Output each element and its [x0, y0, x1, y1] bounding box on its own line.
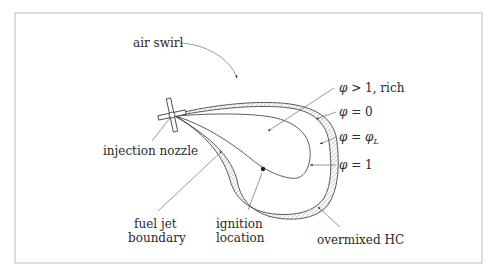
label-fuel-jet-2: boundary: [128, 231, 186, 245]
label-air-swirl: air swirl: [133, 36, 184, 50]
label-fuel-jet-1: fuel jet: [134, 217, 177, 231]
label-phi-rich: φ > 1, rich: [339, 81, 405, 95]
air-swirl-arrow: [180, 43, 237, 78]
leader-overmixed: [318, 207, 340, 227]
leader-injection-nozzle: [152, 118, 170, 141]
ignition-point-icon: [261, 167, 265, 171]
label-phi-L: φ = φL: [339, 130, 379, 146]
injection-nozzle-icon: [155, 95, 189, 134]
label-phi-one: φ = 1: [339, 158, 373, 172]
label-ignition-1: ignition: [216, 217, 263, 231]
label-injection-nozzle: injection nozzle: [103, 144, 198, 158]
hatched-lean-band: [176, 102, 338, 219]
leader-fuel-jet: [158, 151, 222, 211]
diagram-canvas: air swirl injection nozzle fuel jet boun…: [0, 0, 500, 274]
label-phi-zero: φ = 0: [339, 105, 373, 119]
plume-shape: [176, 102, 338, 219]
label-overmixed: overmixed HC: [317, 233, 404, 247]
contour-phi-zero: [176, 102, 338, 219]
leader-ignition: [248, 173, 262, 210]
label-ignition-2: location: [216, 231, 265, 245]
